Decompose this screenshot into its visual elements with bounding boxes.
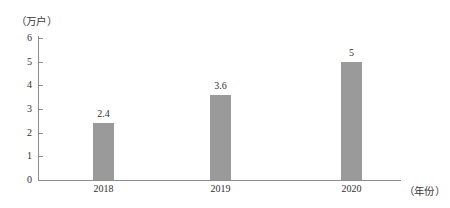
bar (341, 62, 362, 180)
y-axis-tick (39, 85, 43, 86)
y-axis-tick-label: 4 (0, 80, 32, 90)
x-axis-line (38, 180, 401, 181)
bar (210, 95, 231, 180)
bar-chart: （万户） 0123456 2.420183.6201952020 （年份） (0, 0, 450, 208)
x-axis-category-label: 2020 (327, 184, 377, 194)
y-axis-tick-label: 6 (0, 33, 32, 43)
y-axis-tick (39, 109, 43, 110)
x-axis-unit-label: （年份） (404, 183, 445, 198)
bar-value-label: 5 (332, 48, 372, 58)
y-axis-tick (39, 156, 43, 157)
y-axis-tick (39, 133, 43, 134)
y-axis-unit-label: （万户） (16, 13, 57, 28)
y-axis-tick (39, 180, 43, 181)
y-axis-tick-label: 0 (0, 175, 32, 185)
bar-value-label: 2.4 (84, 109, 124, 119)
bar-value-label: 3.6 (201, 81, 241, 91)
y-axis-tick-label: 2 (0, 128, 32, 138)
y-axis-tick (39, 62, 43, 63)
y-axis-tick (39, 38, 43, 39)
x-axis-category-label: 2019 (196, 184, 246, 194)
y-axis-tick-label: 1 (0, 151, 32, 161)
y-axis-tick-label: 5 (0, 57, 32, 67)
bar (93, 123, 114, 180)
x-axis-category-label: 2018 (79, 184, 129, 194)
y-axis-tick-label: 3 (0, 104, 32, 114)
